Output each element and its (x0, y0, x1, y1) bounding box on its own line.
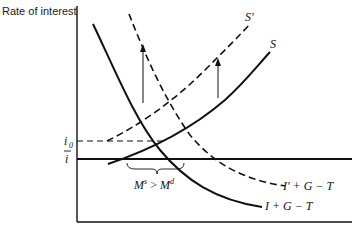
svg-text:0: 0 (69, 141, 73, 150)
shift-arrow-left (140, 44, 146, 103)
y-axis-label: Rate of interest (2, 5, 77, 17)
igt-prime-label: I' + G − T (282, 179, 334, 193)
i0-tick-label: i 0 (64, 134, 73, 150)
excess-supply-label: Ms > Md (133, 177, 175, 192)
shift-arrow-right (215, 58, 221, 98)
s-prime-curve (107, 24, 250, 141)
igt-label: I + G − T (264, 199, 314, 213)
igt-prime-curve (129, 14, 285, 186)
interest-rate-diagram: Rate of interest i 0 i Ms > Md S' S I' +… (0, 0, 358, 227)
excess-brace (127, 163, 184, 174)
svg-text:i: i (64, 134, 67, 148)
s-prime-label: S' (245, 10, 254, 24)
ibar-tick-label: i (64, 151, 71, 166)
svg-text:i: i (65, 152, 68, 166)
s-label: S (270, 37, 276, 51)
